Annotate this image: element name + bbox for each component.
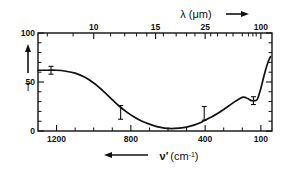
bottom-axis-title: ν′(cm-1) [160,150,199,162]
right-axis-ticks [266,33,272,131]
top-tick-label: 10 [89,22,99,32]
transmission-spectrum-chart: 101525100 1200800400100 050100 λ (μm) → … [0,0,284,169]
top-tick-labels: 101525100 [89,22,268,32]
y-axis-arrow-icon [25,44,31,52]
transmission-curve [38,57,271,129]
top-axis-ticks [47,33,261,39]
plot-frame [38,33,272,131]
bottom-axis-ticks [57,125,261,131]
unit-open: (cm [170,150,188,162]
error-bar [118,106,123,120]
bottom-axis-arrow-graphic [104,152,148,158]
bottom-axis-title-group: ← ν′(cm-1) [116,150,199,162]
bottom-tick-label: 800 [124,134,138,144]
bottom-tick-labels: 1200800400100 [47,134,268,144]
error-bar [202,107,207,121]
left-tick-label: 100 [21,28,35,38]
y-axis-title-group: T [25,44,31,93]
left-tick-label: 0 [30,126,35,136]
bottom-tick-label: 400 [198,134,212,144]
bottom-tick-label: 1200 [47,134,66,144]
top-arrow-head-icon [241,11,249,17]
top-tick-label: 25 [200,22,210,32]
left-axis-ticks [38,33,44,131]
unit-close: ) [195,150,199,162]
top-tick-label: 15 [151,22,161,32]
top-tick-label: 100 [254,22,268,32]
bottom-tick-label: 100 [254,134,268,144]
bottom-arrow-head-icon [104,152,112,158]
top-axis-arrow-graphic [226,11,249,17]
top-axis-title: λ (μm) [180,8,211,20]
prime-symbol: ′ [166,150,169,162]
chart-figure: 101525100 1200800400100 050100 λ (μm) → … [0,0,284,169]
y-axis-title: T [25,82,31,93]
